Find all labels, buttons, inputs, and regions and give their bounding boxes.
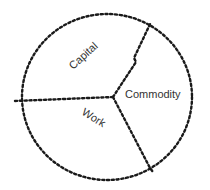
divider-upper-right bbox=[113, 22, 151, 97]
divider-lower-right bbox=[113, 97, 153, 172]
label-commodity: Commodity bbox=[125, 88, 181, 100]
label-capital: Capital bbox=[66, 40, 99, 72]
label-work: Work bbox=[80, 106, 108, 130]
divider-left bbox=[15, 97, 113, 101]
diagram: Capital Commodity Work bbox=[0, 0, 210, 190]
